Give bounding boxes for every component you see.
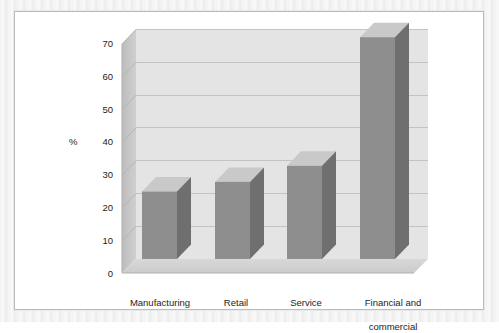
ytick-label-60: 60 <box>89 71 113 82</box>
bar-manufacturing <box>142 177 191 259</box>
ytick-label-30: 30 <box>89 169 113 180</box>
category-label-line2: commercial <box>369 321 418 332</box>
category-label-financial-and-commercial: Financial and commercial <box>343 285 443 333</box>
category-label-retail: Retail <box>201 285 271 309</box>
category-label-line1: Manufacturing <box>130 297 190 308</box>
bar-service <box>287 151 336 259</box>
chart-figure: 70 60 50 40 30 20 10 0 % Manufacturing R… <box>15 12 483 309</box>
bar-financial-and-commercial <box>360 23 409 259</box>
category-label-line1: Financial and <box>365 297 422 308</box>
plot-floor <box>122 259 428 273</box>
plot-left-wall <box>122 29 136 273</box>
category-label-line1: Retail <box>224 297 248 308</box>
y-axis-title: % <box>69 136 77 147</box>
bar-front-face <box>287 166 322 259</box>
category-label-service: Service <box>271 285 341 309</box>
category-label-line1: Service <box>290 297 322 308</box>
ytick-label-20: 20 <box>89 202 113 213</box>
ytick-label-70: 70 <box>89 38 113 49</box>
bar-front-face <box>142 192 177 260</box>
ytick-label-50: 50 <box>89 104 113 115</box>
bar-side-face <box>395 23 409 259</box>
ytick-label-0: 0 <box>89 268 113 279</box>
bar-front-face <box>360 37 395 259</box>
ytick-label-10: 10 <box>89 235 113 246</box>
bar-front-face <box>215 182 250 259</box>
ytick-label-40: 40 <box>89 136 113 147</box>
page-content-frame: 70 60 50 40 30 20 10 0 % Manufacturing R… <box>14 11 484 310</box>
bar-side-face <box>250 167 264 259</box>
bar-chart-graphic <box>15 12 483 309</box>
category-label-manufacturing: Manufacturing <box>119 285 201 309</box>
bar-side-face <box>322 151 336 259</box>
bar-retail <box>215 167 264 259</box>
